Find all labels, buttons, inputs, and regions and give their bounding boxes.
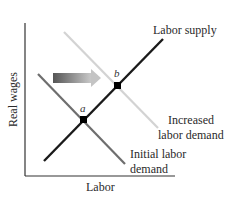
point-a-label: a [80,102,86,114]
increased-labor-demand-label-line2: labor demand [158,128,224,142]
initial-labor-demand-label-line2: demand [130,162,168,176]
labor-supply-label: Labor supply [153,23,217,37]
equilibrium-point-a [80,116,87,123]
point-b-label: b [114,67,120,79]
equilibrium-point-b [114,82,121,89]
y-axis-label: Real wages [6,65,21,135]
shift-arrow-icon [53,69,101,87]
x-axis-label: Labor [86,180,115,194]
increased-labor-demand-label-line1: Increased [168,113,214,127]
initial-labor-demand-label-line1: Initial labor [130,147,186,161]
